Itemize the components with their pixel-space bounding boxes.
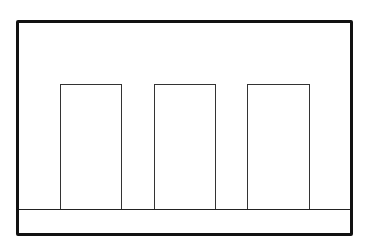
rectangle-3 — [247, 84, 310, 209]
base-strip-line — [19, 209, 350, 210]
rectangle-1 — [60, 84, 122, 209]
outer-frame — [16, 20, 353, 236]
rectangle-2 — [154, 84, 216, 209]
